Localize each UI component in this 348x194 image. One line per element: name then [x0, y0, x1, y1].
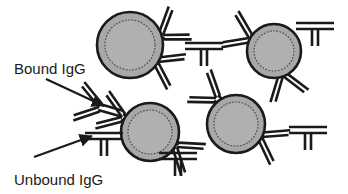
igg-bead-diagram: Bound IgG Unbound IgG [0, 0, 348, 194]
bound-igg-label: Bound IgG [14, 60, 86, 77]
bead-top-left [97, 12, 163, 78]
diagram-canvas: Bound IgG Unbound IgG [0, 0, 348, 194]
unbound-igg-label: Unbound IgG [14, 171, 103, 188]
bead-top-right [247, 24, 301, 78]
bead-bottom-right [207, 95, 265, 153]
bead-inner-ring [105, 20, 155, 70]
bead-inner-ring [128, 110, 172, 154]
bead-inner-ring [254, 31, 294, 71]
bead-inner-ring [214, 102, 258, 146]
